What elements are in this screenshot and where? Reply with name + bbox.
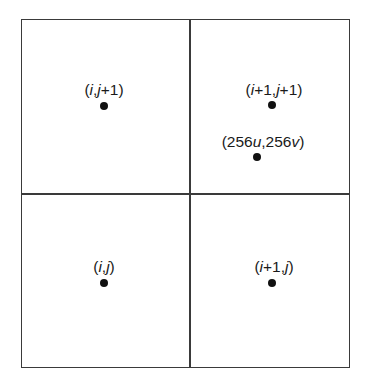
dot-texel-top-right bbox=[268, 101, 276, 109]
label-texel-bottom-right-part-2: +1, bbox=[263, 258, 285, 275]
label-sample-point-part-0: (256 bbox=[222, 133, 253, 150]
grid-divider-horizontal bbox=[21, 193, 350, 195]
label-texel-top-left: (i,j+1) bbox=[84, 82, 123, 98]
label-texel-bottom-left-part-4: ) bbox=[110, 258, 115, 275]
label-texel-top-right: (i+1,j+1) bbox=[246, 82, 303, 98]
label-sample-point: (256u,256v) bbox=[222, 134, 305, 150]
dot-texel-top-left bbox=[100, 102, 108, 110]
label-texel-top-left-part-4: +1) bbox=[101, 81, 124, 98]
label-sample-point-part-4: ) bbox=[299, 133, 304, 150]
diagram-canvas: (i,j+1)(i+1,j+1)(256u,256v)(i,j)(i+1,j) bbox=[0, 0, 371, 388]
label-sample-point-part-1: u bbox=[253, 133, 262, 150]
dot-texel-bottom-left bbox=[100, 279, 108, 287]
label-texel-top-right-part-2: +1, bbox=[254, 81, 276, 98]
dot-sample-point bbox=[253, 153, 261, 161]
label-texel-bottom-right-part-4: ) bbox=[288, 258, 293, 275]
label-texel-bottom-right: (i+1,j) bbox=[254, 259, 293, 275]
label-sample-point-part-3: v bbox=[291, 133, 299, 150]
label-texel-top-right-part-4: +1) bbox=[280, 81, 303, 98]
label-sample-point-part-2: ,256 bbox=[261, 133, 291, 150]
label-texel-bottom-left: (i,j) bbox=[93, 259, 115, 275]
dot-texel-bottom-right bbox=[268, 279, 276, 287]
